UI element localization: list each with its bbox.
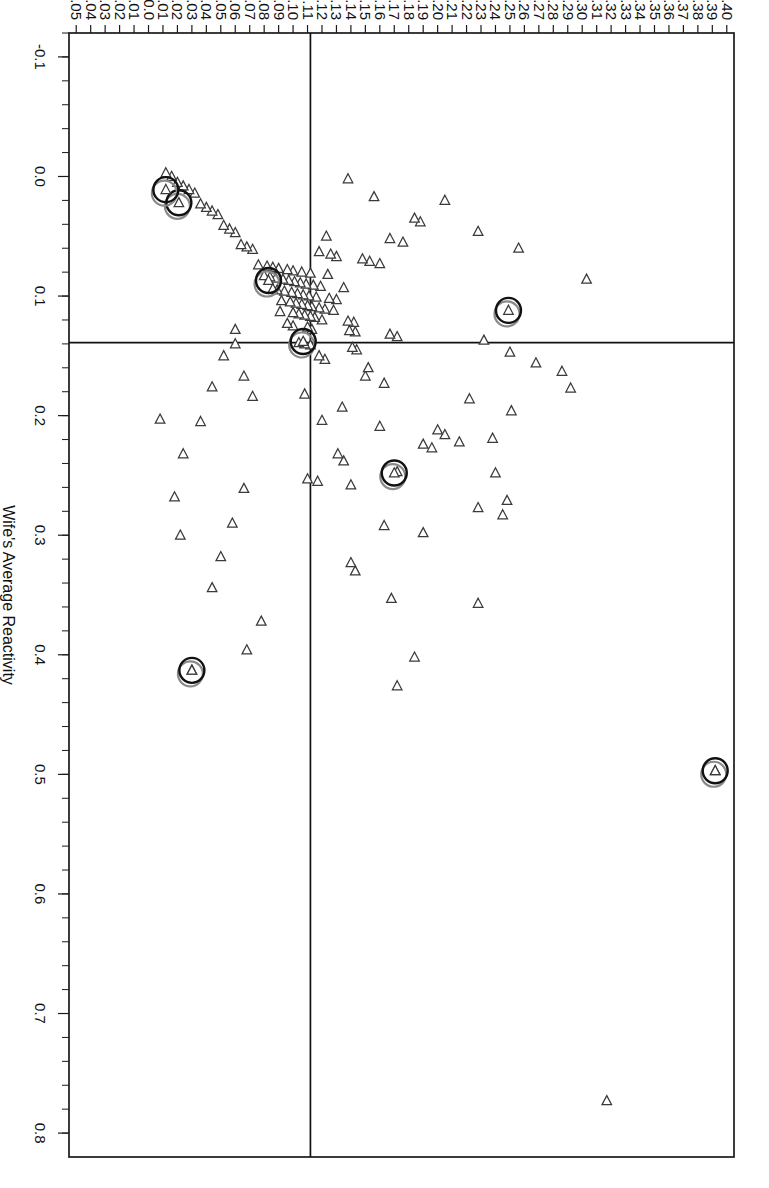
data-point-marker: [230, 324, 240, 333]
data-point-marker: [491, 468, 501, 477]
data-point-marker: [582, 274, 592, 283]
data-point-marker: [236, 239, 246, 248]
data-point-marker: [505, 347, 515, 356]
y-tick-label: 0.34: [632, 0, 649, 20]
data-point-marker: [277, 296, 287, 305]
x-tick-label: 0.1: [32, 286, 49, 307]
y-tick-label: -0.04: [83, 0, 100, 20]
data-point-marker: [239, 371, 249, 380]
x-tick-label: 0.2: [32, 405, 49, 426]
highlighted-point-marker: [710, 766, 720, 775]
x-tick-label: 0.0: [32, 166, 49, 187]
figure-rotator: -0.10.00.10.20.30.40.50.60.70.8Wife's Av…: [0, 0, 769, 1188]
data-point-marker: [346, 558, 356, 567]
data-point-marker: [216, 552, 226, 561]
x-axis-title: Wife's Average Reactivity: [0, 505, 17, 685]
y-tick-label: 0.24: [487, 0, 504, 20]
x-tick-label: 0.7: [32, 1003, 49, 1024]
data-point-marker: [498, 510, 508, 519]
data-point-marker: [196, 416, 206, 425]
data-point-marker: [300, 389, 310, 398]
x-tick-label: 0.8: [32, 1123, 49, 1144]
data-point-marker: [207, 382, 217, 391]
y-tick-label: -0.05: [68, 0, 85, 20]
data-point-marker: [433, 425, 443, 434]
data-point-marker: [531, 358, 541, 367]
axis-labels: -0.10.00.10.20.30.40.50.60.70.8Wife's Av…: [0, 0, 736, 1144]
data-point-marker: [207, 583, 217, 592]
data-point-marker: [473, 226, 483, 235]
data-point-marker: [317, 415, 327, 424]
data-point-marker: [323, 269, 333, 278]
data-point-marker: [161, 168, 171, 177]
scatter-plot-figure: -0.10.00.10.20.30.40.50.60.70.8Wife's Av…: [0, 0, 769, 1188]
y-tick-label: 0.07: [242, 0, 259, 20]
data-point-marker: [369, 192, 379, 201]
data-point-marker: [176, 530, 186, 539]
data-point-marker: [427, 443, 437, 452]
axis-ticks: [58, 25, 727, 1133]
highlighted-point-marker: [161, 184, 171, 193]
data-point-marker: [473, 503, 483, 512]
data-point-marker: [379, 520, 389, 529]
data-point-marker: [410, 652, 420, 661]
data-point-marker: [602, 1096, 612, 1105]
data-point-marker: [346, 480, 356, 489]
data-point-marker: [178, 449, 188, 458]
data-point-marker: [385, 233, 395, 242]
data-point-marker: [387, 593, 397, 602]
y-tick-label: 0.30: [574, 0, 591, 20]
data-point-marker: [488, 433, 498, 442]
data-point-marker: [418, 528, 428, 537]
data-point-marker: [385, 329, 395, 338]
data-point-marker: [410, 213, 420, 222]
data-point-marker: [196, 199, 206, 208]
data-point-marker: [313, 476, 323, 485]
data-point-marker: [440, 195, 450, 204]
x-tick-label: 0.3: [32, 525, 49, 546]
data-point-marker: [361, 371, 371, 380]
y-tick-label: 0.16: [372, 0, 389, 20]
data-point-marker: [326, 249, 336, 258]
data-point-marker: [219, 220, 229, 229]
data-point-marker: [314, 351, 324, 360]
y-tick-label: 0.38: [690, 0, 707, 20]
data-point-marker: [324, 293, 334, 302]
data-point-marker: [333, 449, 343, 458]
data-point-marker: [566, 383, 576, 392]
y-tick-label: 0.15: [357, 0, 374, 20]
y-tick-label: 0.25: [502, 0, 519, 20]
data-point-marker: [283, 318, 293, 327]
data-point-marker: [507, 406, 517, 415]
data-point-marker: [256, 616, 266, 625]
data-point-marker: [339, 282, 349, 291]
y-tick-label: 0.19: [415, 0, 432, 20]
data-points: [155, 168, 720, 1105]
data-point-marker: [375, 259, 385, 268]
data-point-marker: [242, 645, 252, 654]
data-point-marker: [314, 247, 324, 256]
data-point-marker: [350, 566, 360, 575]
y-tick-label: 0.02: [169, 0, 186, 20]
data-point-marker: [358, 254, 368, 263]
y-tick-label: 0.33: [618, 0, 635, 20]
data-point-marker: [239, 483, 249, 492]
data-point-marker: [418, 439, 428, 448]
highlighted-point-marker: [187, 665, 197, 674]
data-point-marker: [398, 237, 408, 246]
y-tick-label: 0.06: [227, 0, 244, 20]
y-tick-label: 0.10: [285, 0, 302, 20]
y-tick-label: 0.39: [704, 0, 721, 20]
data-point-marker: [155, 414, 165, 423]
y-tick-label: -0.03: [97, 0, 114, 20]
x-tick-label: 0.4: [32, 644, 49, 665]
x-tick-label: 0.5: [32, 764, 49, 785]
data-point-marker: [219, 351, 229, 360]
y-tick-label: 0.29: [560, 0, 577, 20]
data-point-marker: [343, 174, 353, 183]
data-point-marker: [248, 391, 258, 400]
data-point-marker: [473, 598, 483, 607]
highlighted-point-marker: [504, 305, 514, 314]
data-point-marker: [465, 394, 475, 403]
data-point-marker: [514, 243, 524, 252]
